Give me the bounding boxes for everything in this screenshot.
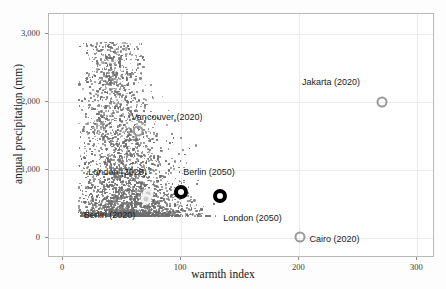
scatter-point xyxy=(135,78,137,80)
scatter-point xyxy=(88,75,90,77)
scatter-point xyxy=(84,98,86,100)
scatter-point xyxy=(168,183,170,185)
scatter-point xyxy=(151,91,153,93)
scatter-point xyxy=(162,178,164,180)
scatter-point xyxy=(173,168,175,170)
scatter-point xyxy=(105,60,107,62)
scatter-point xyxy=(128,89,130,91)
city-marker[interactable] xyxy=(140,194,151,205)
scatter-point xyxy=(208,215,210,217)
scatter-point xyxy=(201,213,203,215)
scatter-point xyxy=(129,134,131,136)
scatter-point xyxy=(126,84,128,86)
city-marker[interactable] xyxy=(132,125,143,136)
scatter-point xyxy=(196,204,198,206)
city-marker[interactable] xyxy=(295,231,306,242)
scatter-point xyxy=(156,177,158,179)
scatter-point xyxy=(149,172,151,174)
city-marker[interactable] xyxy=(213,189,227,203)
city-marker[interactable] xyxy=(174,185,188,199)
scatter-point xyxy=(109,189,111,191)
scatter-point xyxy=(128,150,130,152)
scatter-point xyxy=(162,96,164,98)
scatter-point xyxy=(79,105,81,107)
scatter-point xyxy=(180,160,182,162)
scatter-point xyxy=(98,104,100,106)
scatter-point xyxy=(137,163,139,165)
scatter-point xyxy=(102,90,104,92)
scatter-point xyxy=(114,78,116,80)
scatter-point xyxy=(186,162,188,164)
scatter-point xyxy=(141,43,143,45)
scatter-point xyxy=(86,81,88,83)
x-tick-mark xyxy=(62,257,63,260)
scatter-point xyxy=(119,118,121,120)
scatter-point xyxy=(179,171,181,173)
scatter-point xyxy=(111,91,113,93)
scatter-point xyxy=(151,153,153,155)
scatter-point xyxy=(121,55,123,57)
scatter-point xyxy=(198,213,200,215)
scatter-point xyxy=(118,61,120,63)
scatter-point xyxy=(82,194,84,196)
scatter-point xyxy=(141,122,143,124)
scatter-point xyxy=(95,46,97,48)
plot-area: Jakarta (2020)Vancouver (2020)London (20… xyxy=(48,13,434,257)
scatter-point xyxy=(112,141,114,143)
scatter-point xyxy=(88,181,90,183)
scatter-point xyxy=(130,101,132,103)
scatter-point xyxy=(119,88,121,90)
scatter-point xyxy=(141,207,143,209)
scatter-point xyxy=(99,120,101,122)
scatter-point xyxy=(106,192,108,194)
scatter-point xyxy=(99,64,101,66)
scatter-point xyxy=(130,51,132,53)
scatter-point xyxy=(126,122,128,124)
scatter-point xyxy=(134,184,136,186)
scatter-point xyxy=(197,180,199,182)
scatter-point xyxy=(84,142,86,144)
scatter-point xyxy=(92,71,94,73)
scatter-point xyxy=(87,199,89,201)
scatter-point xyxy=(90,80,92,82)
scatter-point xyxy=(101,200,103,202)
scatter-point xyxy=(127,101,129,103)
scatter-point xyxy=(133,193,135,195)
scatter-point xyxy=(99,45,101,47)
scatter-point xyxy=(108,54,110,56)
scatter-point xyxy=(101,149,103,151)
scatter-point xyxy=(92,200,94,202)
scatter-point xyxy=(84,152,86,154)
scatter-point xyxy=(101,105,103,107)
scatter-point xyxy=(94,204,96,206)
scatter-point xyxy=(109,107,111,109)
scatter-point xyxy=(85,123,87,125)
scatter-point xyxy=(137,48,139,50)
scatter-point xyxy=(118,93,120,95)
scatter-point xyxy=(116,82,118,84)
scatter-point xyxy=(200,208,202,210)
scatter-point xyxy=(117,179,119,181)
scatter-point xyxy=(120,104,122,106)
scatter-point xyxy=(132,139,134,141)
scatter-point xyxy=(148,131,150,133)
scatter-point xyxy=(172,183,174,185)
scatter-point xyxy=(102,46,104,48)
scatter-point xyxy=(144,107,146,109)
scatter-point xyxy=(113,152,115,154)
scatter-point xyxy=(100,110,102,112)
city-marker-label: Jakarta (2020) xyxy=(302,77,360,87)
scatter-point xyxy=(129,53,131,55)
scatter-point xyxy=(124,133,126,135)
city-marker[interactable] xyxy=(376,97,387,108)
scatter-point xyxy=(115,105,117,107)
scatter-point xyxy=(135,146,137,148)
scatter-point xyxy=(119,205,121,207)
scatter-point xyxy=(117,140,119,142)
scatter-point xyxy=(126,197,128,199)
scatter-point xyxy=(103,127,105,129)
scatter-point xyxy=(90,165,92,167)
scatter-point xyxy=(105,118,107,120)
scatter-point xyxy=(93,49,95,51)
scatter-point xyxy=(88,187,90,189)
